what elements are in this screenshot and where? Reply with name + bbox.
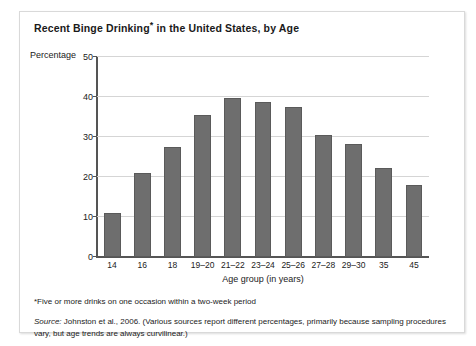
x-axis-tick-labels: 14161819–2021–2223–2425–2627–2829–303545 xyxy=(97,260,429,270)
bar xyxy=(224,98,241,257)
x-axis-tick-label: 19–20 xyxy=(188,260,218,270)
x-axis-title: Age group (in years) xyxy=(97,274,429,284)
bar xyxy=(194,115,211,257)
y-axis-tick-label: 50 xyxy=(83,52,93,62)
x-axis-tick-label: 16 xyxy=(127,260,157,270)
bar xyxy=(104,213,121,257)
bar-slot xyxy=(97,57,127,257)
x-axis-tick-label: 25–26 xyxy=(278,260,308,270)
bar xyxy=(375,168,392,257)
x-axis-tick-label: 18 xyxy=(157,260,187,270)
bar xyxy=(315,135,332,257)
x-axis-tick-label: 14 xyxy=(97,260,127,270)
bar-slot xyxy=(248,57,278,257)
chart-title-main: Recent Binge Drinking xyxy=(34,22,150,34)
x-axis-tick-label: 45 xyxy=(399,260,429,270)
bar-slot xyxy=(188,57,218,257)
bar-slot xyxy=(157,57,187,257)
y-axis-unit-label: Percentage xyxy=(30,50,76,60)
source-label: Source: xyxy=(34,317,62,326)
bar xyxy=(134,173,151,257)
bar-slot xyxy=(399,57,429,257)
bar-slot xyxy=(218,57,248,257)
bar-slot xyxy=(339,57,369,257)
bar xyxy=(255,102,272,257)
x-axis-tick-label: 21–22 xyxy=(218,260,248,270)
chart-title-rest: in the United States, by Age xyxy=(153,22,299,34)
x-axis-tick-label: 29–30 xyxy=(339,260,369,270)
y-axis-tick-label: 0 xyxy=(88,252,93,262)
plot-area: 01020304050 xyxy=(97,57,429,257)
x-axis-tick-label: 23–24 xyxy=(248,260,278,270)
x-axis-tick-label: 27–28 xyxy=(308,260,338,270)
bar-series xyxy=(97,57,429,257)
source-text: Johnston et al., 2006. (Various sources … xyxy=(34,317,446,338)
bar-slot xyxy=(308,57,338,257)
footnotes: *Five or more drinks on one occasion wit… xyxy=(34,297,452,339)
chart-title: Recent Binge Drinking* in the United Sta… xyxy=(34,22,299,34)
bar-slot xyxy=(127,57,157,257)
bar xyxy=(285,107,302,257)
x-axis-tick-label: 35 xyxy=(369,260,399,270)
y-axis-tick-label: 30 xyxy=(83,132,93,142)
source-note: Source: Johnston et al., 2006. (Various … xyxy=(34,316,452,339)
y-axis-tick-label: 20 xyxy=(83,172,93,182)
bar xyxy=(345,144,362,257)
footnote-asterisk: *Five or more drinks on one occasion wit… xyxy=(34,297,452,307)
bar xyxy=(164,147,181,257)
bar xyxy=(406,185,423,257)
figure-panel: Recent Binge Drinking* in the United Sta… xyxy=(19,11,465,333)
bar-slot xyxy=(369,57,399,257)
bar-slot xyxy=(278,57,308,257)
y-axis-tick-label: 10 xyxy=(83,212,93,222)
y-axis-tick-label: 40 xyxy=(83,92,93,102)
